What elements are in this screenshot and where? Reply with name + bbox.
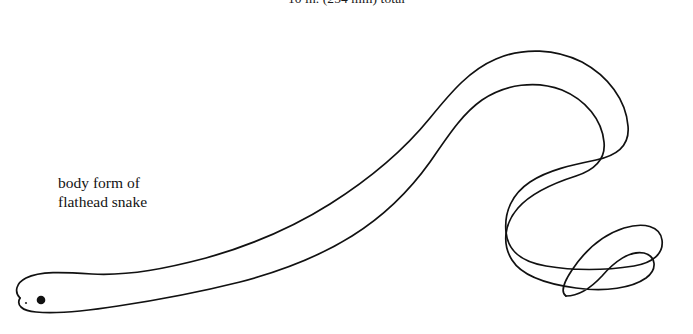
- body-form-label-line1: body form of: [58, 173, 147, 192]
- snake-drawing: [0, 0, 693, 334]
- snake-eye: [37, 296, 46, 305]
- nostril-icon: [25, 302, 27, 304]
- body-form-label-line2: flathead snake: [58, 192, 147, 211]
- body-form-label: body form of flathead snake: [58, 173, 147, 211]
- figure-container: 10 in. (254 mm) total body form of flath…: [0, 0, 693, 334]
